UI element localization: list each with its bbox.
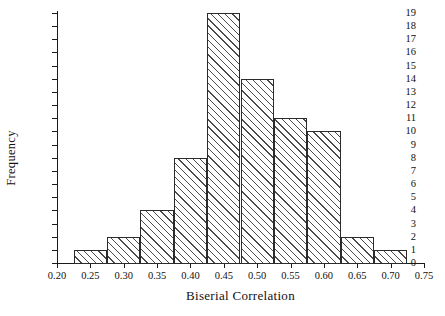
y-axis-tick bbox=[52, 66, 57, 67]
y-axis-tick-label: 9 bbox=[390, 140, 416, 151]
histogram-bar bbox=[207, 13, 240, 264]
histogram-figure: Frequency 012345678910111213141516171819… bbox=[0, 0, 445, 316]
histogram-bar bbox=[307, 131, 340, 264]
histogram-bar bbox=[274, 118, 307, 264]
y-axis-tick bbox=[52, 184, 57, 185]
y-axis-tick bbox=[52, 105, 57, 106]
x-axis-title: Biserial Correlation bbox=[57, 288, 424, 304]
y-axis-tick bbox=[52, 224, 57, 225]
y-axis-tick bbox=[52, 158, 57, 159]
histogram-bar bbox=[107, 237, 140, 264]
y-axis-tick-label: 10 bbox=[390, 126, 416, 137]
y-axis-tick bbox=[52, 79, 57, 80]
y-axis-tick bbox=[52, 250, 57, 251]
y-axis-tick-label: 18 bbox=[390, 21, 416, 32]
y-axis-tick bbox=[52, 131, 57, 132]
y-axis-tick-label: 3 bbox=[390, 219, 416, 230]
y-axis-tick bbox=[52, 13, 57, 14]
y-axis-tick bbox=[52, 39, 57, 40]
y-axis-tick-label: 4 bbox=[390, 205, 416, 216]
histogram-bar bbox=[341, 237, 374, 264]
y-axis-tick-label: 19 bbox=[390, 8, 416, 19]
y-axis-tick-label: 11 bbox=[390, 113, 416, 124]
y-axis-tick bbox=[52, 26, 57, 27]
y-axis-tick-label: 2 bbox=[390, 232, 416, 243]
y-axis-tick bbox=[52, 145, 57, 146]
y-axis-tick-label: 6 bbox=[390, 179, 416, 190]
y-axis-tick bbox=[52, 171, 57, 172]
y-axis-tick bbox=[52, 210, 57, 211]
y-axis-tick-label: 16 bbox=[390, 47, 416, 58]
x-axis-tick bbox=[424, 263, 425, 268]
y-axis-tick-label: 5 bbox=[390, 192, 416, 203]
y-axis-tick bbox=[52, 118, 57, 119]
y-axis-tick bbox=[52, 92, 57, 93]
histogram-bar bbox=[241, 79, 274, 264]
histogram-bar bbox=[174, 158, 207, 264]
plot-area: 0123456789101112131415161718190.200.250.… bbox=[57, 13, 424, 263]
y-axis-tick-label: 12 bbox=[390, 100, 416, 111]
x-axis-tick bbox=[57, 263, 58, 268]
y-axis-tick-label: 13 bbox=[390, 87, 416, 98]
y-axis-tick-label: 17 bbox=[390, 34, 416, 45]
histogram-bar bbox=[140, 210, 173, 264]
y-axis-tick-label: 15 bbox=[390, 61, 416, 72]
y-axis-tick-label: 7 bbox=[390, 166, 416, 177]
y-axis-title: Frequency bbox=[0, 0, 22, 316]
histogram-bar bbox=[74, 250, 107, 264]
y-axis-tick bbox=[52, 237, 57, 238]
histogram-bar bbox=[374, 250, 407, 264]
y-axis-tick-label: 14 bbox=[390, 74, 416, 85]
y-axis-tick bbox=[52, 52, 57, 53]
x-axis-tick-label: 0.75 bbox=[404, 270, 444, 281]
y-axis-tick bbox=[52, 197, 57, 198]
y-axis-tick-label: 8 bbox=[390, 153, 416, 164]
